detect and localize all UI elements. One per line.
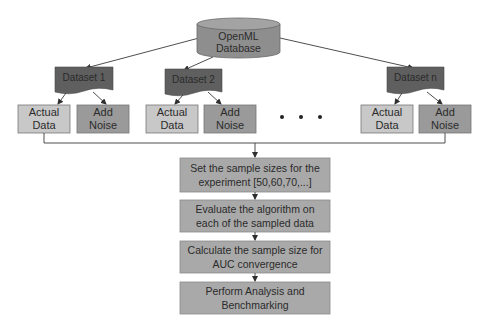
openml-database-label: OpenML Database — [197, 28, 280, 56]
database-label-line1: OpenML — [218, 30, 258, 42]
step-4-line2: Benchmarking — [221, 298, 288, 312]
add-noise-2-line2: Noise — [216, 119, 244, 132]
step-2-line2: each of the sampled data — [196, 216, 314, 230]
actual-data-1-line1: Actual — [29, 106, 60, 119]
dataset-2-label: Dataset 2 — [165, 70, 222, 90]
step-1-line1: Set the sample sizes for the — [190, 161, 320, 175]
actual-data-1-line2: Data — [32, 119, 55, 132]
step-1-label: Set the sample sizes for the experiment … — [180, 158, 330, 192]
add-noise-1-label: Add Noise — [77, 105, 129, 133]
dataset-1-label: Dataset 1 — [55, 68, 113, 88]
actual-data-2-label: Actual Data — [146, 105, 198, 133]
add-noise-n-line2: Noise — [431, 119, 459, 132]
add-noise-2-line1: Add — [220, 106, 240, 119]
dataset-n-label: Dataset n — [387, 68, 444, 88]
actual-data-2-line1: Actual — [157, 106, 188, 119]
add-noise-2-label: Add Noise — [204, 105, 256, 133]
step-3-line1: Calculate the sample size for — [188, 243, 323, 257]
step-4-label: Perform Analysis and Benchmarking — [180, 282, 330, 314]
step-2-line1: Evaluate the algorithm on — [195, 202, 314, 216]
actual-data-1-label: Actual Data — [18, 105, 70, 133]
step-4-line1: Perform Analysis and — [205, 284, 304, 298]
add-noise-1-line2: Noise — [89, 119, 117, 132]
dataset-shapes — [55, 67, 444, 96]
database-label-line2: Database — [216, 42, 261, 54]
step-2-label: Evaluate the algorithm on each of the sa… — [180, 200, 330, 232]
actual-data-n-line2: Data — [375, 119, 398, 132]
add-noise-1-line1: Add — [93, 106, 113, 119]
actual-data-2-line2: Data — [160, 119, 183, 132]
step-3-label: Calculate the sample size for AUC conver… — [180, 241, 330, 273]
add-noise-n-label: Add Noise — [419, 105, 471, 133]
step-1-line2: experiment [50,60,70,...] — [198, 175, 311, 189]
add-noise-n-line1: Add — [435, 106, 455, 119]
connectors-dataset-to-leaves — [58, 92, 442, 104]
actual-data-n-line1: Actual — [372, 106, 403, 119]
ellipsis-dots — [280, 115, 322, 119]
actual-data-n-label: Actual Data — [361, 105, 413, 133]
merge-connector — [44, 133, 445, 157]
step-3-line2: AUC convergence — [212, 257, 297, 271]
